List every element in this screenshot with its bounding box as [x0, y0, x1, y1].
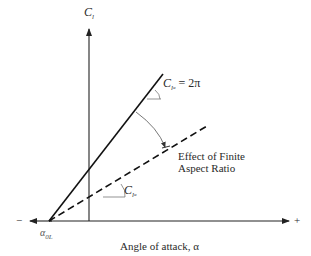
x-axis-positive-sign: + — [294, 214, 300, 226]
wing-slope-label: Clα — [124, 184, 137, 199]
cla-subsub: α — [173, 85, 176, 90]
airfoil-slope-label: Clα = 2π — [163, 77, 200, 92]
effect-arc-arrow — [136, 112, 165, 147]
zero-lift-angle-label: α0L — [40, 227, 53, 240]
annotation-line-1: Effect of Finite — [178, 150, 245, 162]
annotation-effect: Effect of Finite Aspect Ratio — [178, 150, 245, 174]
cla-main: C — [163, 76, 171, 90]
y-axis-label: Cl — [84, 6, 94, 20]
x-axis-negative-sign: − — [16, 214, 22, 226]
cl-main: C — [84, 5, 92, 19]
cla-wing-main: C — [124, 183, 132, 197]
cl-sub: l — [92, 13, 94, 21]
cla-wing-subsub: α — [134, 192, 137, 197]
x-axis-label: Angle of attack, α — [120, 240, 199, 252]
alpha-sub: 0L — [45, 233, 52, 241]
slope-angle-arc-solid — [155, 90, 160, 99]
effect-arc-tick — [162, 146, 170, 148]
infinite-wing-lift-curve — [49, 74, 163, 221]
lift-curve-diagram — [0, 0, 311, 256]
cla-rhs: = 2π — [176, 76, 201, 90]
annotation-line-2: Aspect Ratio — [178, 162, 245, 174]
